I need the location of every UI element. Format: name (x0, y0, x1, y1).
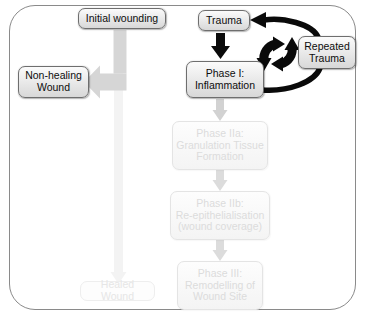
arrow-initial-wounding-to-non-healing-wound (84, 30, 127, 99)
node-initial-wounding-label: Initial wounding (82, 13, 162, 25)
arrow-phase-i-to-phase-iia (213, 99, 228, 121)
node-phase-iii-line3: Wound Site (181, 291, 259, 303)
node-repeated-trauma-line2: Trauma (302, 53, 352, 65)
node-phase-iii-line1: Phase III: (181, 268, 259, 280)
arrow-phase-iib-to-phase-iii (213, 240, 228, 261)
node-trauma[interactable]: Trauma (198, 10, 250, 31)
node-phase-iib-line3: (wound coverage) (174, 221, 266, 233)
node-initial-wounding[interactable]: Initial wounding (78, 8, 166, 29)
node-phase-iib[interactable]: Phase IIb: Re-epithelialisation (wound c… (170, 191, 270, 240)
node-phase-i[interactable]: Phase I: Inflammation (186, 61, 264, 98)
node-phase-i-line2: Inflammation (190, 80, 260, 92)
node-phase-iia[interactable]: Phase IIa: Granulation Tissue Formation (172, 121, 268, 170)
node-trauma-label: Trauma (202, 15, 246, 27)
node-non-healing-wound-line2: Wound (22, 82, 85, 94)
node-healed-wound[interactable]: Healed Wound (80, 281, 155, 301)
node-phase-iia-line3: Formation (176, 151, 264, 163)
node-phase-i-line1: Phase I: (190, 68, 260, 80)
diagram-canvas: Initial wounding Trauma Repeated Trauma … (0, 0, 369, 324)
node-phase-iib-line1: Phase IIb: (174, 198, 266, 210)
node-non-healing-wound[interactable]: Non-healing Wound (18, 66, 89, 98)
node-phase-iii[interactable]: Phase III: Remodelling of Wound Site (177, 261, 263, 310)
node-healed-wound-label: Healed Wound (84, 279, 151, 303)
node-repeated-trauma-line1: Repeated (302, 41, 352, 53)
arrow-phase-iia-to-phase-iib (213, 170, 228, 191)
node-repeated-trauma[interactable]: Repeated Trauma (298, 36, 356, 69)
node-phase-iia-line1: Phase IIa: (176, 128, 264, 140)
